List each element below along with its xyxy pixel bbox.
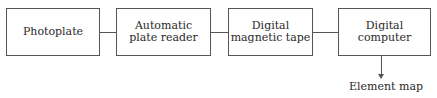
node-computer: Digital computer <box>338 8 431 56</box>
node-label-line2: plate reader <box>129 32 198 44</box>
output-arrow-line <box>381 55 382 75</box>
node-photoplate: Photoplate <box>6 8 100 56</box>
node-label-line2: magnetic tape <box>231 32 311 44</box>
node-magnetic-tape: Digital magnetic tape <box>228 8 313 56</box>
connector-2 <box>211 32 228 33</box>
connector-1 <box>100 32 116 33</box>
arrow-down-icon <box>378 74 384 79</box>
node-plate-reader: Automatic plate reader <box>116 8 211 56</box>
connector-3 <box>313 32 338 33</box>
node-label: Photoplate <box>23 26 83 38</box>
node-label-line2: computer <box>358 32 412 44</box>
output-label: Element map <box>346 80 426 93</box>
